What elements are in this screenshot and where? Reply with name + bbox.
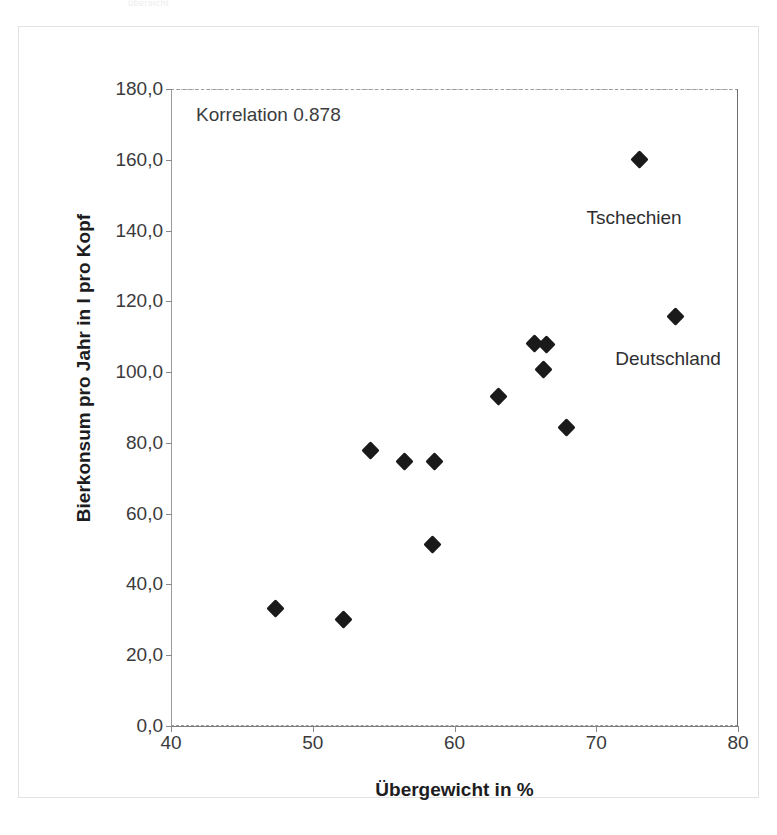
x-axis-tick-mark [171, 726, 172, 732]
x-axis-tick-mark [596, 726, 597, 732]
y-axis-tick-mark [166, 231, 172, 232]
data-point-label: Deutschland [615, 348, 721, 370]
data-point [534, 360, 552, 378]
data-point [334, 610, 352, 628]
data-point [489, 387, 507, 405]
data-point [361, 442, 379, 460]
data-point [266, 599, 284, 617]
data-point [631, 150, 649, 168]
axis-right-line [737, 89, 738, 727]
x-axis-tick-mark [313, 726, 314, 732]
y-axis-tick-mark [166, 301, 172, 302]
y-axis-tick-mark [166, 89, 172, 90]
y-axis-title: Bierkonsum pro Jahr in l pro Kopf [73, 88, 95, 648]
y-axis-tick-mark [166, 584, 172, 585]
plot-area: Korrelation 0.878 TschechienDeutschland [171, 89, 738, 726]
x-axis-title: Übergewicht in % [171, 779, 738, 801]
data-point [557, 419, 575, 437]
data-point-label: Tschechien [587, 207, 682, 229]
data-point [395, 452, 413, 470]
correlation-annotation: Korrelation 0.878 [196, 104, 341, 126]
scan-artifact-top-text: übersicht [128, 0, 248, 8]
data-point [666, 307, 684, 325]
x-axis-tick-label: 80 [698, 732, 777, 754]
axis-top-line [171, 89, 738, 90]
y-axis-tick-mark [166, 160, 172, 161]
x-axis-tick-labels: 4050607080 [171, 732, 738, 762]
x-axis-tick-label: 40 [131, 732, 211, 754]
data-point [537, 336, 555, 354]
figure-frame: Korrelation 0.878 TschechienDeutschland … [18, 26, 759, 798]
x-axis-tick-label: 60 [415, 732, 495, 754]
x-axis-tick-label: 50 [273, 732, 353, 754]
x-axis-tick-label: 70 [556, 732, 636, 754]
x-axis-tick-mark [738, 726, 739, 732]
y-axis-line [171, 89, 172, 727]
y-axis-tick-mark [166, 443, 172, 444]
data-point [425, 452, 443, 470]
scatter-chart-screenshot: übersicht Korrelation 0.878 TschechienDe… [0, 0, 777, 835]
y-axis-tick-mark [166, 655, 172, 656]
y-axis-tick-mark [166, 514, 172, 515]
data-point [424, 536, 442, 554]
x-axis-tick-mark [455, 726, 456, 732]
y-axis-tick-mark [166, 372, 172, 373]
